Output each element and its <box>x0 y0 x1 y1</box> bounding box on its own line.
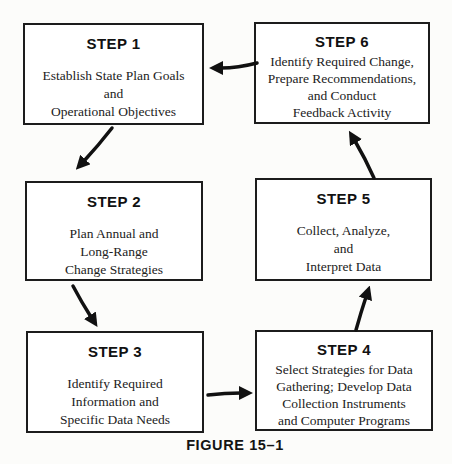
arrow-step3-to-step4 <box>208 393 241 395</box>
step-3-line: Identify Required <box>28 375 202 393</box>
step-2-line: Change Strategies <box>27 261 201 279</box>
step-5-box: STEP 5 Collect, Analyze, and Interpret D… <box>255 178 432 281</box>
arrow-step2-to-step3 <box>73 286 91 317</box>
arrow-step4-to-step5 <box>356 297 366 330</box>
step-3-line: Specific Data Needs <box>28 411 202 429</box>
step-3-box: STEP 3 Identify Required Information and… <box>26 331 204 433</box>
step-4-box: STEP 4 Select Strategies for Data Gather… <box>255 330 433 431</box>
step-2-line: Long-Range <box>27 243 201 261</box>
step-2-title: STEP 2 <box>27 193 201 210</box>
step-5-line: Collect, Analyze, <box>257 222 430 240</box>
step-5-line: and <box>257 240 430 258</box>
step-4-body: Select Strategies for Data Gathering; De… <box>257 361 431 429</box>
arrow-step5-to-step6 <box>355 141 374 178</box>
step-2-box: STEP 2 Plan Annual and Long-Range Change… <box>25 181 203 281</box>
figure-caption: FIGURE 15–1 <box>130 437 340 453</box>
step-6-line: and Conduct <box>256 87 428 104</box>
step-1-line: Establish State Plan Goals <box>25 67 202 85</box>
step-6-line: Feedback Activity <box>256 104 428 121</box>
step-4-line: and Computer Programs <box>257 412 431 429</box>
step-3-line: Information and <box>28 393 202 411</box>
step-6-box: STEP 6 Identify Required Change, Prepare… <box>254 22 430 124</box>
step-3-title: STEP 3 <box>28 343 202 360</box>
step-4-line: Collection Instruments <box>257 395 431 412</box>
step-5-body: Collect, Analyze, and Interpret Data <box>257 222 430 276</box>
step-5-line: Interpret Data <box>257 258 430 276</box>
step-6-line: Prepare Recommendations, <box>256 70 428 87</box>
step-1-title: STEP 1 <box>25 35 202 52</box>
arrow-step1-to-step2 <box>84 128 112 161</box>
flowchart-figure: STEP 1 Establish State Plan Goals and Op… <box>0 0 452 464</box>
step-4-line: Select Strategies for Data <box>257 361 431 378</box>
step-4-line: Gathering; Develop Data <box>257 378 431 395</box>
step-6-title: STEP 6 <box>256 33 428 50</box>
step-1-box: STEP 1 Establish State Plan Goals and Op… <box>23 23 204 125</box>
step-6-line: Identify Required Change, <box>256 53 428 70</box>
step-1-body: Establish State Plan Goals and Operation… <box>25 67 202 121</box>
step-2-line: Plan Annual and <box>27 225 201 243</box>
step-3-body: Identify Required Information and Specif… <box>28 375 202 429</box>
step-1-line: and <box>25 85 202 103</box>
arrow-step6-to-step1 <box>221 63 257 68</box>
step-2-body: Plan Annual and Long-Range Change Strate… <box>27 225 201 279</box>
step-5-title: STEP 5 <box>257 190 430 207</box>
step-6-body: Identify Required Change, Prepare Recomm… <box>256 53 428 121</box>
step-1-line: Operational Objectives <box>25 103 202 121</box>
step-4-title: STEP 4 <box>257 341 431 358</box>
